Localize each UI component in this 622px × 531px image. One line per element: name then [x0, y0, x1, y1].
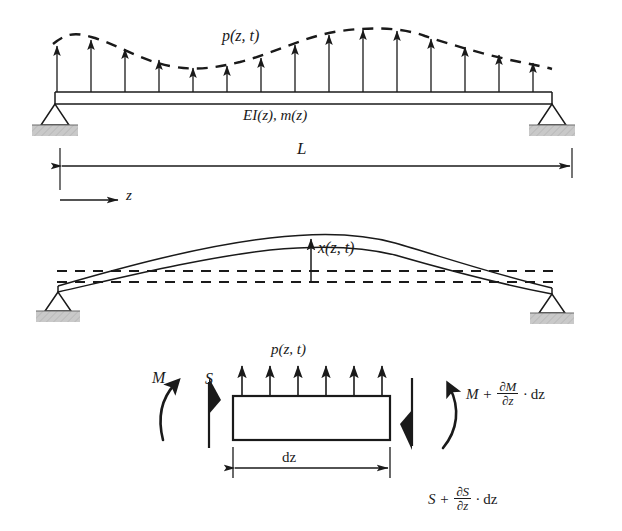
moment-right-arrow	[443, 388, 456, 448]
shear-left-arrow	[209, 378, 221, 448]
support-left-top	[32, 104, 78, 136]
element-width-label: dz	[282, 450, 296, 465]
load-label-fbd: p(z, t)	[271, 342, 306, 357]
load-envelope-dashed-curve	[53, 28, 552, 69]
shear-right-denominator: ∂z	[454, 499, 471, 513]
support-left-bottom	[36, 292, 80, 322]
fbd-element-rectangle	[233, 396, 390, 440]
shear-right-dot: ·	[476, 491, 480, 507]
shear-right-expression: S + ∂S ∂z · dz	[428, 486, 497, 514]
moment-right-differential: dz	[531, 386, 545, 402]
span-dimension	[60, 148, 572, 190]
moment-right-plus: +	[482, 386, 492, 402]
moment-right-dot: ·	[523, 386, 527, 402]
load-label-top: p(z, t)	[222, 28, 259, 44]
beam-top	[55, 92, 552, 104]
shear-right-fraction: ∂S ∂z	[454, 485, 471, 513]
moment-right-denominator: ∂z	[497, 394, 518, 408]
shear-right-numerator: ∂S	[454, 485, 471, 499]
deflection-label: x(z, t)	[318, 240, 354, 256]
moment-left-arrow	[161, 384, 175, 440]
undeformed-reference-lines	[57, 271, 556, 282]
moment-right-fraction: ∂M ∂z	[497, 380, 518, 408]
beam-dynamics-figure: p(z, t) EI(z), m(z) L z x(z, t) p(z, t) …	[0, 0, 622, 531]
span-length-label: L	[297, 140, 306, 157]
moment-right-base: M	[466, 386, 479, 402]
shear-right-base: S	[428, 491, 436, 507]
fbd-load-arrows	[242, 366, 382, 396]
moment-right-numerator: ∂M	[497, 380, 518, 394]
z-axis-label: z	[126, 188, 132, 203]
figure-vector-layer	[0, 0, 622, 531]
distributed-load-arrows	[57, 30, 533, 92]
moment-right-expression: M + ∂M ∂z · dz	[466, 381, 545, 409]
moment-left-label: M	[152, 370, 165, 386]
shear-right-differential: dz	[483, 491, 497, 507]
shear-left-label: S	[205, 371, 213, 387]
support-right-top	[529, 104, 575, 136]
shear-right-arrow	[400, 378, 412, 450]
support-right-bottom	[530, 294, 574, 324]
beam-property-label: EI(z), m(z)	[243, 108, 307, 123]
shear-right-plus: +	[439, 491, 449, 507]
fbd-dz-dimension	[233, 447, 390, 478]
deflected-beam	[58, 234, 552, 294]
